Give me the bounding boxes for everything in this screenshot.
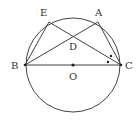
label-b: B [11, 60, 18, 71]
label-e: E [40, 7, 47, 18]
angle-mark-ace [110, 55, 112, 57]
angle-mark-ecb [107, 61, 109, 63]
point-b-marker [24, 64, 27, 67]
geometry-diagram: E A D B O C [0, 0, 140, 122]
label-o: O [69, 71, 77, 82]
label-d: D [69, 41, 77, 52]
label-c: C [125, 60, 133, 71]
segment-ec [49, 22, 121, 65]
point-o-marker [71, 63, 74, 66]
segment-be [25, 22, 49, 65]
label-a: A [94, 7, 103, 18]
point-c-marker [120, 64, 123, 67]
segment-ba [25, 22, 98, 65]
